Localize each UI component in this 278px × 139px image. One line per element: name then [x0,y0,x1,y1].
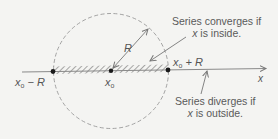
center-label: xo [105,76,114,90]
center-sub: o [111,82,115,89]
center-dot [109,69,113,73]
converges-line-2: x is inside. [172,27,261,39]
left-endpoint-dot [51,69,56,74]
radius-label: R [124,42,132,54]
left-endpoint-rest: − R [24,76,44,88]
converges-line-1: Series converges if [172,15,261,27]
left-endpoint-var: x [15,76,21,88]
diverges-note: Series diverges if x is outside. [175,95,256,119]
convergence-interval-diagram: xo − R xo xo + R R x Series converges if… [0,0,278,139]
right-endpoint-label: xo + R [173,56,203,70]
right-endpoint-sub: o [179,62,183,69]
converges-rest: is inside. [197,27,241,39]
converges-note: Series converges if x is inside. [172,15,261,39]
left-endpoint-sub: o [21,82,25,89]
diverges-rest: is outside. [193,107,243,119]
right-endpoint-var: x [173,56,179,68]
diverges-line-1: Series diverges if [175,95,256,107]
axis-label: x [258,73,263,85]
diverges-line-2: x is outside. [175,107,256,119]
center-var: x [105,76,111,88]
left-endpoint-label: xo − R [15,76,45,90]
diverges-pointer [201,71,207,94]
right-endpoint-rest: + R [182,56,202,68]
right-endpoint-dot [166,68,171,73]
